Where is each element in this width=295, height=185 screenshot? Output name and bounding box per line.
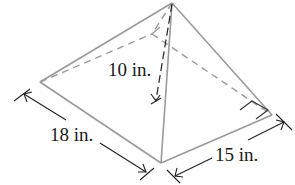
dim-15-line-a bbox=[175, 158, 212, 176]
edge-apex-front bbox=[161, 3, 172, 163]
edge-apex-left bbox=[40, 3, 172, 82]
hidden-edges bbox=[40, 3, 272, 115]
dimension-18: 18 in. bbox=[14, 89, 154, 180]
label-10-in: 10 in. bbox=[108, 59, 151, 80]
height-line bbox=[156, 4, 172, 100]
dim-18-line-a bbox=[24, 94, 66, 120]
hidden-edge-back-right bbox=[152, 34, 272, 115]
edge-apex-right bbox=[172, 3, 272, 115]
dim-18-tick-start bbox=[14, 89, 30, 101]
dimension-15: 15 in. bbox=[167, 114, 292, 183]
dim-15-tick-end bbox=[276, 114, 292, 130]
label-15-in: 15 in. bbox=[215, 144, 258, 165]
pyramid-diagram: 18 in. 15 in. 10 in. bbox=[0, 0, 295, 185]
label-18-in: 18 in. bbox=[50, 124, 93, 145]
dim-18-line-b bbox=[100, 143, 146, 172]
dim-15-line-b bbox=[248, 122, 284, 140]
edge-left-front bbox=[40, 82, 161, 163]
